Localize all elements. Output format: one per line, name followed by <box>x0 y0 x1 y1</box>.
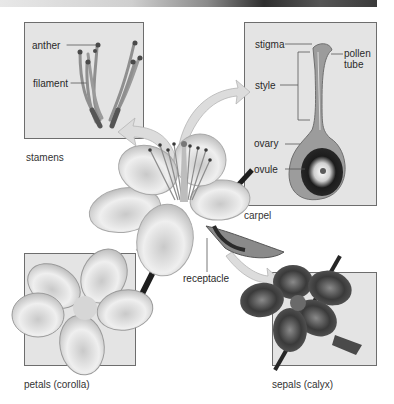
petals-illustration <box>12 241 156 378</box>
carpel-caption: carpel <box>244 210 271 221</box>
ovule-label: ovule <box>254 164 278 175</box>
ovary-label: ovary <box>254 138 278 149</box>
pollen-tube-label-line1: pollen <box>344 48 371 59</box>
style-label: style <box>255 80 276 91</box>
flower-illustration <box>0 0 394 404</box>
pollen-tube-label-line2: tube <box>344 59 363 70</box>
filament-label: filament <box>33 78 68 89</box>
anther-label: anther <box>32 40 60 51</box>
sepals-caption: sepals (calyx) <box>272 379 333 390</box>
carpel-illustration <box>280 44 345 200</box>
stamens-caption: stamens <box>26 152 64 163</box>
petals-caption: petals (corolla) <box>24 379 90 390</box>
stigma-label: stigma <box>255 39 284 50</box>
receptacle-label: receptacle <box>183 273 229 284</box>
stamens-illustration <box>67 41 143 127</box>
